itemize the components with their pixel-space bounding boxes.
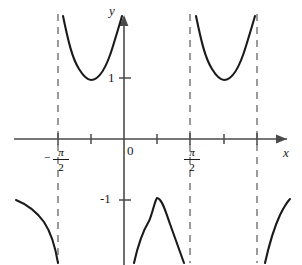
y-tick-label-neg-one: -1	[100, 192, 111, 205]
x-axis-label: x	[283, 146, 289, 159]
numerator-pi: π	[53, 146, 69, 159]
x-tick-label-neg-half-pi: − π 2	[53, 146, 69, 173]
secant-graph-figure: y x 0 1 -1 − π 2 π 2	[0, 0, 302, 265]
y-axis-label: y	[109, 4, 115, 17]
denominator-two: 2	[184, 159, 200, 173]
curve-branch-lower-left-partial	[16, 200, 58, 263]
denominator-two: 2	[53, 159, 69, 173]
curve-branch-lower-right-partial	[265, 199, 290, 263]
curve-branch-upper-right	[196, 16, 255, 80]
axes-group	[14, 18, 287, 265]
graph-canvas	[0, 0, 302, 265]
x-tick-label-half-pi: π 2	[184, 146, 200, 173]
curve-branch-lower-center	[134, 198, 184, 263]
origin-label: 0	[127, 144, 134, 157]
minus-sign: −	[44, 151, 50, 163]
numerator-pi: π	[184, 146, 200, 159]
x-axis-arrowhead	[276, 135, 287, 144]
y-tick-label-one: 1	[108, 71, 115, 84]
